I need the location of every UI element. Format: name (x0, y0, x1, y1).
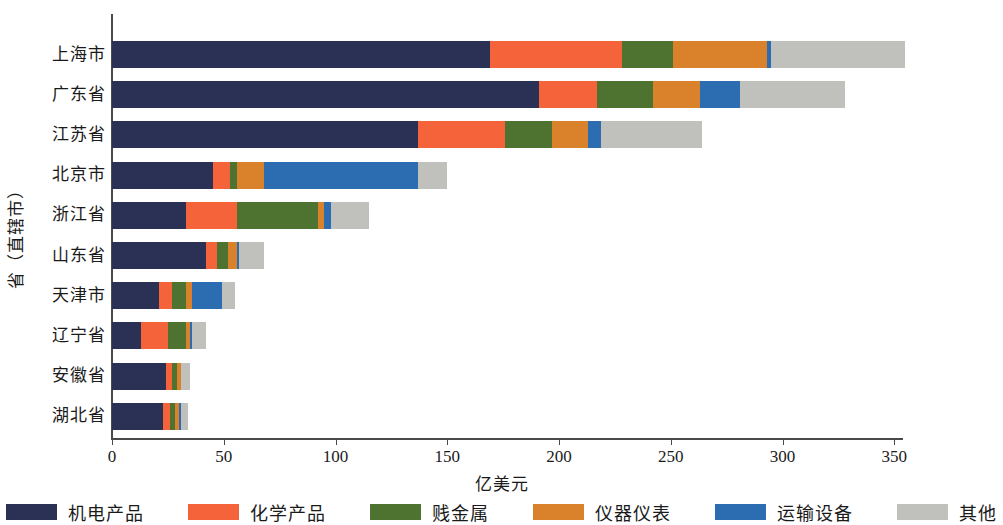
bar-segment (239, 242, 264, 269)
bar-segment (112, 403, 163, 430)
bar-segment (490, 41, 622, 68)
bar-segment (181, 403, 188, 430)
bar-segment (418, 121, 505, 148)
bar-segment (112, 41, 490, 68)
bar-segment (418, 162, 447, 189)
x-axis-tick-label: 250 (641, 447, 701, 467)
bar-segment (112, 363, 166, 390)
legend-label: 化学产品 (250, 499, 326, 525)
legend-swatch-icon (188, 504, 239, 520)
legend-swatch-icon (6, 504, 57, 520)
bar-segment (112, 162, 213, 189)
legend-label: 运输设备 (777, 499, 853, 525)
bar-segment (552, 121, 588, 148)
bar-segment (112, 282, 159, 309)
bar-segment (597, 81, 653, 108)
x-axis-tick (894, 438, 895, 445)
legend-item[interactable]: 机电产品 (6, 499, 144, 525)
legend-label: 其他 (959, 499, 997, 525)
legend-item[interactable]: 化学产品 (188, 499, 326, 525)
x-axis-tick (783, 438, 784, 445)
category-label: 浙江省 (18, 206, 106, 223)
legend-swatch-icon (715, 504, 766, 520)
bar-segment (159, 282, 172, 309)
bar-segment (112, 81, 539, 108)
legend-item[interactable]: 仪器仪表 (533, 499, 671, 525)
category-label: 安徽省 (18, 367, 106, 384)
category-label: 山东省 (18, 247, 106, 264)
plot-area (112, 14, 903, 438)
category-label: 广东省 (18, 86, 106, 103)
bar-segment (228, 242, 237, 269)
bar-segment (539, 81, 597, 108)
bar-segment (217, 242, 228, 269)
x-axis-tick-label: 100 (306, 447, 366, 467)
bar-segment (318, 202, 325, 229)
x-axis-tick-label: 300 (753, 447, 813, 467)
x-axis-tick (671, 438, 672, 445)
bar-segment (237, 202, 317, 229)
bar-segment (230, 162, 237, 189)
bar-segment (168, 322, 186, 349)
bar-segment (588, 121, 601, 148)
category-label: 湖北省 (18, 407, 106, 424)
bar-segment (112, 322, 141, 349)
legend-swatch-icon (897, 504, 948, 520)
legend-item[interactable]: 贱金属 (370, 499, 489, 525)
category-label: 天津市 (18, 287, 106, 304)
bar-segment (324, 202, 331, 229)
category-label: 上海市 (18, 46, 106, 63)
x-axis-tick (336, 438, 337, 445)
x-axis-title: 亿美元 (0, 470, 1003, 495)
x-axis-tick-label: 0 (82, 447, 142, 467)
legend-label: 仪器仪表 (595, 499, 671, 525)
category-label: 北京市 (18, 166, 106, 183)
bar-segment (112, 202, 186, 229)
x-axis-tick (224, 438, 225, 445)
bar-segment (264, 162, 418, 189)
bar-segment (673, 41, 767, 68)
bar-segment (192, 322, 205, 349)
stacked-bar-chart: 省（直辖市） 上海市广东省江苏省北京市浙江省山东省天津市辽宁省安徽省湖北省 05… (0, 0, 1003, 525)
bar-segment (181, 363, 190, 390)
bar-segment (771, 41, 905, 68)
category-axis-labels: 上海市广东省江苏省北京市浙江省山东省天津市辽宁省安徽省湖北省 (18, 14, 106, 438)
x-axis-tick (559, 438, 560, 445)
bar-segment (112, 242, 206, 269)
x-axis-tick (447, 438, 448, 445)
bar-segment (213, 162, 231, 189)
x-axis-tick (112, 438, 113, 445)
x-axis-tick-label: 50 (194, 447, 254, 467)
bar-segment (206, 242, 217, 269)
bar-segment (192, 282, 221, 309)
bar-segment (222, 282, 235, 309)
legend-item[interactable]: 其他 (897, 499, 997, 525)
bar-segment (505, 121, 552, 148)
x-axis-tick-label: 200 (529, 447, 589, 467)
bar-segment (166, 363, 173, 390)
chart-legend: 机电产品化学产品贱金属仪器仪表运输设备其他 (0, 498, 1003, 525)
bar-segment (141, 322, 168, 349)
bar-segment (237, 162, 264, 189)
legend-swatch-icon (370, 504, 421, 520)
legend-label: 贱金属 (432, 499, 489, 525)
bar-segment (172, 282, 185, 309)
legend-label: 机电产品 (68, 499, 144, 525)
bar-segment (622, 41, 673, 68)
bar-segment (700, 81, 740, 108)
x-axis-tick-label: 150 (417, 447, 477, 467)
x-axis-line (111, 438, 903, 440)
bar-segment (331, 202, 369, 229)
legend-item[interactable]: 运输设备 (715, 499, 853, 525)
bar-segment (601, 121, 702, 148)
bar-segment (186, 282, 193, 309)
bar-segment (740, 81, 845, 108)
bar-segment (186, 202, 237, 229)
bar-segment (163, 403, 170, 430)
bar-segment (653, 81, 700, 108)
legend-swatch-icon (533, 504, 584, 520)
category-label: 辽宁省 (18, 327, 106, 344)
bar-segment (112, 121, 418, 148)
category-label: 江苏省 (18, 126, 106, 143)
x-axis-tick-label: 350 (864, 447, 924, 467)
